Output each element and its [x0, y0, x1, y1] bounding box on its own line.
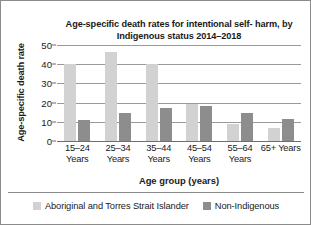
x-tick-label-line-2: Years: [179, 154, 220, 165]
legend-label: Aboriginal and Torres Strait Islander: [45, 201, 189, 211]
y-tick-label-40: 40: [41, 59, 52, 70]
x-axis-tick-labels: 15–24Years25–34Years35–44Years45–54Years…: [57, 143, 301, 165]
y-tick-mark-10: [52, 121, 56, 122]
bars-layer: [57, 45, 301, 141]
x-tick-label-line-1: 15–24: [65, 143, 90, 153]
bar[interactable]: [200, 106, 212, 141]
y-tick-mark-30: [52, 83, 56, 84]
x-tick-label: 45–54Years: [179, 143, 220, 165]
chart-title-line-1: Age-specific death rates for intentional…: [66, 19, 253, 29]
x-tick-label-line-2: Years: [220, 154, 261, 165]
bar[interactable]: [78, 120, 90, 141]
plot-area: 01020304050: [57, 45, 301, 141]
x-tick-label: 15–24Years: [57, 143, 98, 165]
bar[interactable]: [227, 124, 239, 141]
x-tick-label: 35–44Years: [138, 143, 179, 165]
bar-group: [57, 45, 98, 141]
bar[interactable]: [241, 113, 253, 141]
x-tick-label-line-2: Years: [98, 154, 139, 165]
legend-swatch-icon: [33, 202, 41, 210]
x-tick-label-line-1: 25–34: [106, 143, 131, 153]
y-tick-mark-50: [52, 45, 56, 46]
bar-group: [220, 45, 261, 141]
y-tick-mark-0: [52, 141, 56, 142]
bar[interactable]: [186, 104, 198, 141]
y-tick-label-10: 10: [41, 116, 52, 127]
gridline-0: [57, 141, 301, 142]
bar[interactable]: [119, 113, 131, 141]
bar-group: [179, 45, 220, 141]
y-tick-label-50: 50: [41, 40, 52, 51]
bar[interactable]: [268, 128, 280, 141]
chart-title: Age-specific death rates for intentional…: [57, 19, 301, 42]
bar[interactable]: [64, 64, 76, 141]
x-tick-label-line-2: Years: [138, 154, 179, 165]
x-tick-label-line-1: 45–54: [187, 143, 212, 153]
bar-group: [98, 45, 139, 141]
bar[interactable]: [160, 108, 172, 141]
bar-group: [260, 45, 301, 141]
bar[interactable]: [282, 119, 294, 141]
x-tick-label-line-1: 35–44: [146, 143, 171, 153]
x-tick-label: 55–64Years: [220, 143, 261, 165]
bar[interactable]: [105, 52, 117, 141]
legend-swatch-icon: [203, 202, 211, 210]
legend-item[interactable]: Non-Indigenous: [203, 201, 279, 211]
y-tick-label-0: 0: [47, 136, 52, 147]
y-tick-mark-40: [52, 64, 56, 65]
x-axis-title: Age group (years): [57, 175, 301, 186]
bar[interactable]: [146, 64, 158, 141]
chart-figure: Age-specific death rates for intentional…: [0, 0, 311, 225]
y-tick-mark-20: [52, 102, 56, 103]
x-tick-label: 65+ Years: [260, 143, 301, 165]
y-tick-label-30: 30: [41, 78, 52, 89]
y-tick-label-20: 20: [41, 97, 52, 108]
x-tick-label: 25–34Years: [98, 143, 139, 165]
x-tick-label-line-1: 65+ Years: [261, 143, 301, 153]
bar-group: [138, 45, 179, 141]
legend-label: Non-Indigenous: [215, 201, 279, 211]
y-axis-title: Age-specific death rate: [15, 33, 26, 153]
x-tick-label-line-1: 55–64: [228, 143, 253, 153]
chart-legend: Aboriginal and Torres Strait IslanderNon…: [8, 193, 304, 218]
legend-item[interactable]: Aboriginal and Torres Strait Islander: [33, 201, 189, 211]
x-tick-label-line-2: Years: [57, 154, 98, 165]
